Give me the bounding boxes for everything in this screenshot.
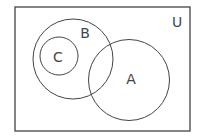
set-a-label: A xyxy=(126,71,136,87)
set-c-label: C xyxy=(53,49,63,65)
universe-label: U xyxy=(172,14,182,30)
set-b-circle xyxy=(33,19,113,99)
set-b-label: B xyxy=(80,25,90,41)
universe-rectangle xyxy=(15,7,190,131)
venn-diagram: U B C A xyxy=(0,0,198,139)
